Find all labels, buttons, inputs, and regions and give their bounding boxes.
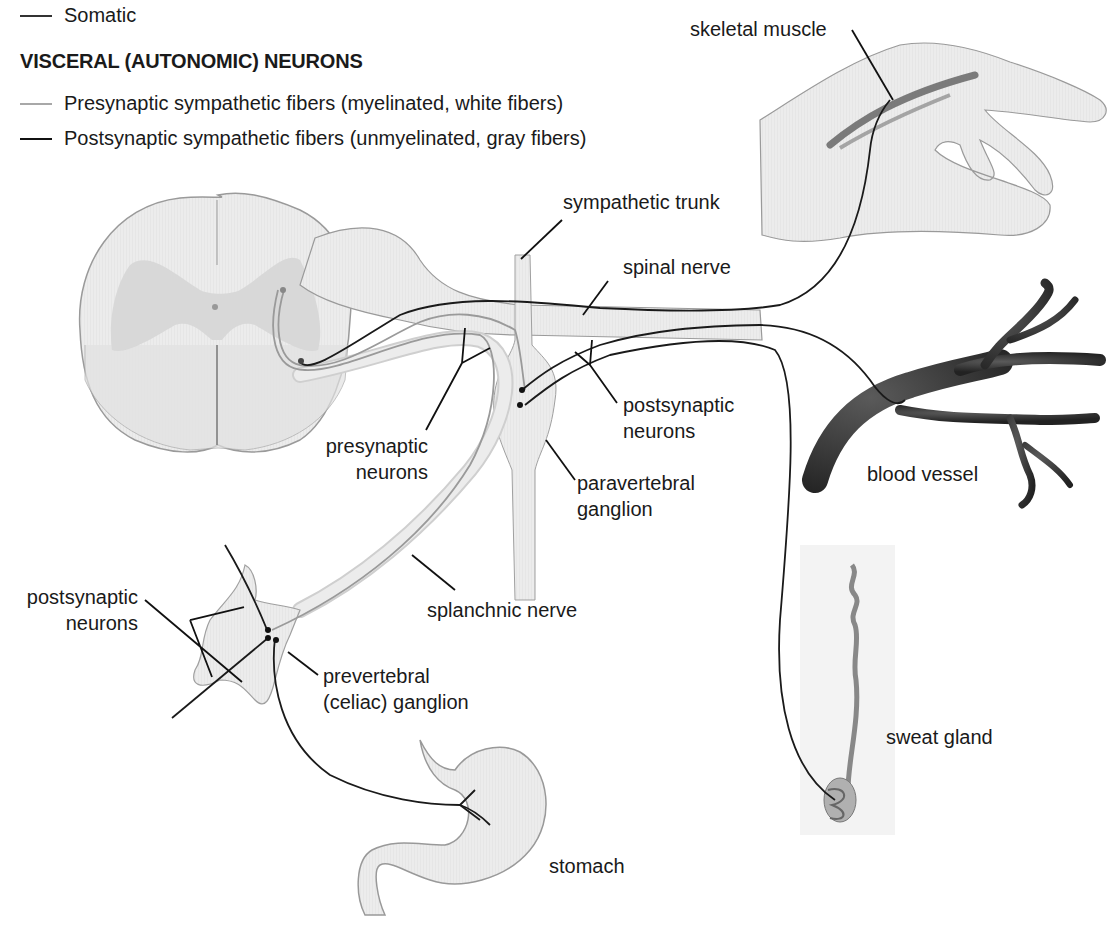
label-sympathetic-trunk: sympathetic trunk (563, 189, 720, 215)
sweat-gland-illustration (800, 545, 895, 835)
label-postsynaptic-neurons-lower: postsynaptic neurons (5, 584, 138, 636)
hand-illustration (760, 43, 1106, 242)
label-line-2: neurons (5, 610, 138, 636)
label-paravertebral-ganglion: paravertebral ganglion (577, 470, 695, 522)
label-sweat-gland: sweat gland (886, 724, 993, 750)
label-blood-vessel: blood vessel (867, 461, 978, 487)
label-prevertebral-ganglion: prevertebral (celiac) ganglion (323, 663, 469, 715)
label-skeletal-muscle: skeletal muscle (690, 16, 827, 42)
label-stomach: stomach (549, 853, 625, 879)
label-line-1: prevertebral (323, 663, 469, 689)
label-postsynaptic-neurons-upper: postsynaptic neurons (623, 392, 734, 444)
spinal-cord-illustration (80, 193, 351, 452)
label-splanchnic-nerve: splanchnic nerve (427, 597, 577, 623)
label-line-1: postsynaptic (5, 584, 138, 610)
label-line-1: postsynaptic (623, 392, 734, 418)
label-line-2: ganglion (577, 496, 695, 522)
label-line-1: presynaptic (308, 433, 428, 459)
label-line-2: (celiac) ganglion (323, 689, 469, 715)
label-spinal-nerve: spinal nerve (623, 254, 731, 280)
label-presynaptic-neurons: presynaptic neurons (308, 433, 428, 485)
stomach-illustration (358, 740, 546, 915)
label-line-2: neurons (623, 418, 734, 444)
label-line-2: neurons (308, 459, 428, 485)
label-line-1: paravertebral (577, 470, 695, 496)
